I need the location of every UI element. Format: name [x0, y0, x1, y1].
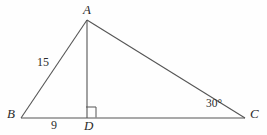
- side-length-ba: 15: [37, 56, 49, 68]
- vertex-label-b: B: [7, 107, 15, 120]
- side-length-bd: 9: [51, 119, 57, 131]
- vertex-label-d: D: [84, 119, 93, 132]
- vertex-label-c: C: [250, 107, 259, 120]
- segment-ba: [21, 20, 87, 118]
- vertex-label-a: A: [83, 3, 91, 16]
- geometry-figure: A B C D 15 9 30°: [0, 0, 267, 135]
- angle-measure-c: 30°: [206, 98, 222, 110]
